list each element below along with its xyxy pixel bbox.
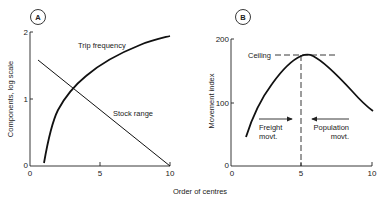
badge-a: A [31, 10, 46, 25]
annotation-population-line2: movt. [331, 132, 349, 141]
annotation-trip-frequency: Trip frequency [78, 41, 126, 50]
axes-a [30, 32, 170, 166]
annotation-ceiling: Ceiling [248, 51, 271, 60]
series-trip-frequency [44, 36, 170, 163]
ylabel-a: Components, log scale [6, 61, 15, 137]
badge-b: B [236, 10, 251, 25]
xtick-a-0: 0 [28, 169, 33, 178]
xtick-a-10: 10 [166, 169, 175, 178]
ylabel-b: Movement index [207, 73, 216, 128]
xtick-b-0: 0 [230, 169, 235, 178]
svg-text:B: B [240, 13, 246, 22]
ytick-b-200: 200 [216, 35, 230, 44]
annotation-freight-line2: movt. [259, 132, 277, 141]
shared-xlabel: Order of centres [173, 187, 227, 196]
annotation-stock-range: Stock range [113, 109, 153, 118]
figure: A 2 1 0 0 5 10 Components, log scale Tri… [0, 0, 381, 202]
ytick-a-2: 2 [24, 28, 29, 37]
xtick-b-5: 5 [299, 169, 304, 178]
annotation-population-line1: Population [314, 123, 349, 132]
ytick-b-100: 100 [216, 99, 230, 108]
ytick-a-1: 1 [24, 95, 29, 104]
svg-text:A: A [35, 13, 41, 22]
panel-a: A 2 1 0 0 5 10 Components, log scale Tri… [6, 10, 175, 179]
xtick-b-10: 10 [368, 169, 377, 178]
xtick-a-5: 5 [98, 169, 103, 178]
panel-b: B 200 100 0 0 5 10 Movement index Ceilin… [207, 10, 377, 179]
annotation-freight-line1: Freight [259, 123, 283, 132]
